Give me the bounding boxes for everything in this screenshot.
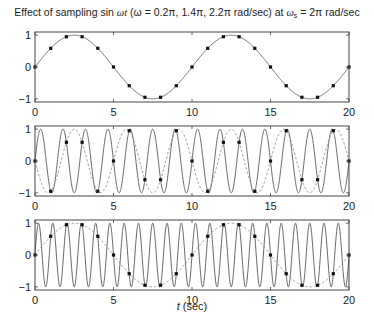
sample-point (285, 84, 288, 87)
sample-point (300, 284, 303, 287)
sample-point (285, 272, 288, 275)
sample-point (65, 35, 68, 38)
sample-point (222, 141, 225, 144)
x-tick-label: 5 (110, 294, 116, 306)
y-tick-label: −1 (18, 93, 31, 105)
x-axis-label-unit: (sec) (180, 300, 208, 312)
sample-point (49, 47, 52, 50)
sample-point (143, 284, 146, 287)
sample-point (190, 159, 193, 162)
figure: Effect of sampling sin ωt (ω = 0.2π, 1.4… (0, 0, 374, 334)
sample-point (65, 223, 68, 226)
y-tick-label: 1 (25, 123, 31, 135)
x-tick-label: 20 (343, 106, 355, 118)
sample-point (190, 65, 193, 68)
sample-point (175, 272, 178, 275)
sample-point (253, 190, 256, 193)
y-tick-label: 1 (25, 29, 31, 41)
x-tick-label: 5 (110, 200, 116, 212)
y-tick-label: 0 (25, 61, 31, 73)
x-tick-label: 10 (186, 200, 198, 212)
sample-point (81, 223, 84, 226)
x-tick-label: 20 (343, 294, 355, 306)
sample-point (128, 129, 131, 132)
sample-point (96, 47, 99, 50)
sample-point (300, 178, 303, 181)
sample-point (222, 223, 225, 226)
sample-point (332, 129, 335, 132)
sample-point (253, 47, 256, 50)
sample-point (206, 47, 209, 50)
sample-point (285, 129, 288, 132)
sample-point (269, 253, 272, 256)
sample-point (175, 129, 178, 132)
sample-point (316, 284, 319, 287)
x-tick-label: 0 (32, 200, 38, 212)
panel-omega-0.2pi: 05101520−101 (18, 29, 355, 118)
sample-point (81, 141, 84, 144)
sample-point (332, 84, 335, 87)
sample-point (112, 159, 115, 162)
y-tick-label: 1 (25, 217, 31, 229)
sample-point (332, 272, 335, 275)
title-prefix: Effect of sampling sin (14, 6, 117, 18)
x-axis-label: t (sec) (177, 300, 208, 312)
sample-point (112, 65, 115, 68)
sample-point (143, 96, 146, 99)
sample-point (112, 253, 115, 256)
x-tick-label: 5 (110, 106, 116, 118)
sample-point (269, 65, 272, 68)
title-omega-s: ω (286, 7, 293, 18)
sample-point (128, 272, 131, 275)
chart-title: Effect of sampling sin ωt (ω = 0.2π, 1.4… (14, 6, 359, 19)
y-tick-label: −1 (18, 187, 31, 199)
sample-point (316, 178, 319, 181)
sample-point (159, 96, 162, 99)
sample-point (300, 96, 303, 99)
title-middle: (ω = 0.2π, 1.4π, 2.2π rad/sec) at (127, 6, 286, 18)
x-tick-label: 15 (264, 200, 276, 212)
sample-point (175, 84, 178, 87)
sample-point (96, 235, 99, 238)
x-tick-label: 20 (343, 200, 355, 212)
sample-point (49, 235, 52, 238)
panel-omega-2.2pi: 05101520−101 (18, 217, 355, 306)
x-tick-label: 0 (32, 106, 38, 118)
y-tick-label: −1 (18, 281, 31, 293)
sample-point (222, 35, 225, 38)
sample-point (128, 84, 131, 87)
sample-point (316, 96, 319, 99)
sample-point (206, 235, 209, 238)
y-tick-label: 0 (25, 249, 31, 261)
sample-point (96, 190, 99, 193)
sample-point (65, 141, 68, 144)
sample-point (159, 178, 162, 181)
sample-point (143, 178, 146, 181)
sample-point (81, 35, 84, 38)
x-tick-label: 10 (186, 106, 198, 118)
y-tick-label: 0 (25, 155, 31, 167)
panel-omega-1.4pi: 05101520−101 (18, 123, 355, 212)
sample-point (253, 235, 256, 238)
x-tick-label: 0 (32, 294, 38, 306)
x-tick-label: 15 (264, 106, 276, 118)
sample-point (238, 223, 241, 226)
sample-point (49, 190, 52, 193)
sample-point (238, 35, 241, 38)
title-suffix: = 2π rad/sec (297, 6, 359, 18)
x-tick-label: 15 (264, 294, 276, 306)
sample-point (159, 284, 162, 287)
sample-point (190, 253, 193, 256)
sample-point (238, 141, 241, 144)
sample-point (269, 159, 272, 162)
sample-point (206, 190, 209, 193)
